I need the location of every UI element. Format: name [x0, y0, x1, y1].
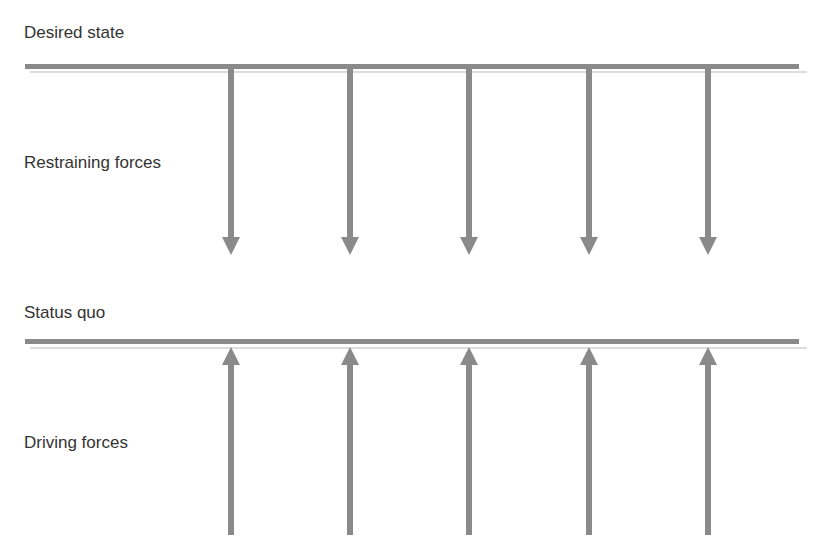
restraining-arrow-down-icon	[460, 66, 478, 255]
driving-arrow-up-icon	[341, 347, 359, 535]
driving-arrows	[222, 347, 717, 535]
restraining-arrow-down-icon	[222, 66, 240, 255]
driving-arrow-up-icon	[699, 347, 717, 535]
driving-arrow-up-icon	[222, 347, 240, 535]
driving-arrow-up-icon	[580, 347, 598, 535]
driving-arrow-up-icon	[460, 347, 478, 535]
restraining-arrow-down-icon	[699, 66, 717, 255]
restraining-arrow-down-icon	[580, 66, 598, 255]
desired-state-line	[25, 64, 807, 73]
restraining-arrow-down-icon	[341, 66, 359, 255]
status-quo-line	[25, 339, 807, 349]
restraining-arrows	[222, 66, 717, 255]
force-field-diagram	[0, 0, 819, 559]
